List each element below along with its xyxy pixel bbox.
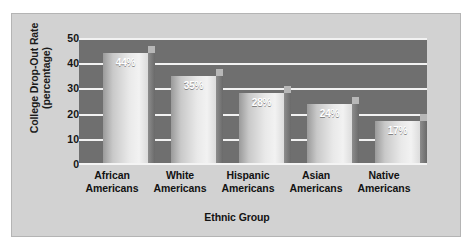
bar-top-face <box>420 114 427 121</box>
bar-front-face: 17% <box>375 121 420 164</box>
y-axis-title-line-2: (percentage) <box>40 3 52 153</box>
bar-native-americans[interactable]: 17% <box>375 121 420 164</box>
y-tick-label: 40 <box>56 58 79 69</box>
bar-african-americans[interactable]: 44% <box>103 53 148 164</box>
bar-front-face: 24% <box>307 104 352 165</box>
chart-card: College Drop-Out Rate (percentage) 50 40… <box>11 13 461 237</box>
bar-value-label: 28% <box>239 97 284 108</box>
bar-side-face <box>420 121 427 164</box>
bar-top-face <box>216 69 223 76</box>
bar-top-face <box>284 86 291 93</box>
bar-value-label: 44% <box>103 57 148 68</box>
bar-white-americans[interactable]: 35% <box>171 76 216 164</box>
bar-asian-americans[interactable]: 24% <box>307 104 352 165</box>
y-axis-tick-labels: 50 40 30 20 10 0 <box>56 38 79 164</box>
x-tick-label-line-1: Native <box>344 169 424 182</box>
bar-top-face <box>148 46 155 53</box>
bar-front-face: 44% <box>103 53 148 164</box>
y-tick-label: 10 <box>56 134 79 145</box>
bar-side-face <box>148 53 155 164</box>
y-tick-label: 20 <box>56 109 79 120</box>
y-axis-title-line-1: College Drop-Out Rate <box>28 3 40 153</box>
bar-side-face <box>284 93 291 164</box>
bar-hispanic-americans[interactable]: 28% <box>239 93 284 164</box>
x-axis-baseline <box>79 163 427 165</box>
bar-side-face <box>216 76 223 164</box>
bar-value-label: 35% <box>171 80 216 91</box>
x-axis-title: Ethnic Group <box>12 211 462 223</box>
y-axis-title: College Drop-Out Rate (percentage) <box>28 3 52 153</box>
gridline-50 <box>79 38 427 40</box>
bar-value-label: 17% <box>375 125 420 136</box>
plot-area: 44% 35% 28% 24% <box>79 38 427 164</box>
bar-top-face <box>352 97 359 104</box>
bar-value-label: 24% <box>307 108 352 119</box>
y-tick-label: 50 <box>56 33 79 44</box>
x-tick-label-native-americans: Native Americans <box>344 169 424 195</box>
x-tick-label-line-2: Americans <box>344 182 424 195</box>
bar-front-face: 28% <box>239 93 284 164</box>
bar-side-face <box>352 104 359 165</box>
bar-front-face: 35% <box>171 76 216 164</box>
y-tick-label: 30 <box>56 83 79 94</box>
